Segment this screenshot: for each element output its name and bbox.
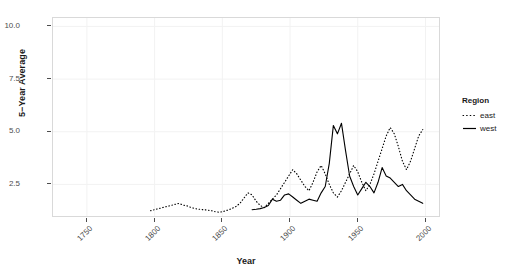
legend-title: Region xyxy=(462,96,510,105)
y-tick-label: 2.5 xyxy=(9,179,20,188)
legend-label-west: west xyxy=(480,124,496,133)
dotted-line-icon xyxy=(462,110,477,121)
y-tick-mark xyxy=(47,25,51,26)
x-tick-mark xyxy=(154,218,155,222)
legend-item-east[interactable]: east xyxy=(462,109,510,122)
x-tick-label: 1900 xyxy=(268,224,297,253)
chart-container: 2.55.07.510.0 5−Year Average 17501800185… xyxy=(0,0,512,272)
x-tick-label: 1950 xyxy=(336,224,365,253)
legend-item-west[interactable]: west xyxy=(462,122,510,135)
x-tick-label: 2000 xyxy=(404,224,433,253)
gridlines xyxy=(53,18,439,216)
solid-line-icon xyxy=(462,123,477,134)
legend: Region east west xyxy=(462,96,510,135)
y-tick-mark xyxy=(47,78,51,79)
y-axis-title: 5−Year Average xyxy=(17,13,27,153)
y-tick-mark xyxy=(47,131,51,132)
plot-panel xyxy=(52,17,440,217)
data-series-layer xyxy=(151,123,423,212)
x-tick-mark xyxy=(425,218,426,222)
x-axis-title: Year xyxy=(52,256,440,266)
legend-label-east: east xyxy=(480,111,495,120)
x-tick-label: 1850 xyxy=(201,224,230,253)
x-tick-mark xyxy=(86,218,87,222)
x-tick-mark xyxy=(289,218,290,222)
y-tick-mark xyxy=(47,183,51,184)
plot-area xyxy=(53,18,439,216)
x-tick-mark xyxy=(221,218,222,222)
x-tick-label: 1800 xyxy=(133,224,162,253)
x-tick-label: 1750 xyxy=(65,224,94,253)
x-tick-mark xyxy=(357,218,358,222)
